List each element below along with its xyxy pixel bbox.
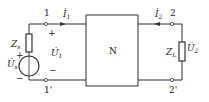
- source-minus: −: [16, 73, 24, 83]
- terminal-1-prime-label: 1': [44, 85, 52, 95]
- terminal-1-prime: [44, 78, 47, 81]
- terminal-2-prime-label: 2': [169, 85, 177, 95]
- current-i1-arrow-icon: [60, 22, 66, 26]
- terminal-1: [44, 22, 47, 25]
- terminal-2-prime: [170, 78, 173, 81]
- current-i1-label: İ1: [62, 8, 70, 20]
- port1-minus: −: [49, 65, 57, 75]
- load-impedance-label: ZL: [165, 47, 176, 58]
- source-plus: +: [16, 50, 24, 60]
- terminal-1-label: 1: [44, 8, 50, 18]
- current-i2-label: İ2: [154, 8, 163, 20]
- source-voltage-label: U̇s: [7, 58, 18, 70]
- load-impedance-zl: [179, 42, 185, 61]
- port1-plus: +: [48, 28, 56, 38]
- terminal-2: [170, 22, 173, 25]
- terminal-2-label: 2: [170, 8, 176, 18]
- voltage-u2-label: U̇2: [187, 42, 199, 54]
- network-label: N: [109, 46, 117, 56]
- voltage-u1-label: U̇1: [51, 47, 62, 59]
- source-impedance-label: Zs: [10, 39, 20, 50]
- source-impedance-zs: [26, 34, 32, 52]
- current-i2-arrow-icon: [154, 22, 160, 26]
- circuit-diagram: N 1 1' İ1 + U̇1 − Zs + U̇s − 2 2' İ2 ZL …: [0, 0, 209, 102]
